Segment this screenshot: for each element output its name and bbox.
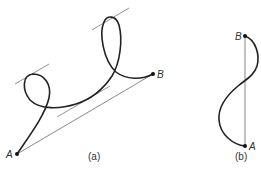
point-a-label-b: A xyxy=(248,141,256,152)
caption-a: (a) xyxy=(88,151,100,162)
s-curve xyxy=(219,36,258,146)
diagram-canvas: A B (a) B A (b) xyxy=(0,0,261,175)
looped-curve xyxy=(17,17,153,154)
figure-a: A B (a) xyxy=(5,8,164,162)
point-a-dot xyxy=(15,152,19,156)
chord-ab-a xyxy=(17,74,153,154)
point-a-label: A xyxy=(5,149,13,160)
point-a-dot-b xyxy=(243,144,247,148)
point-b-dot xyxy=(151,72,155,76)
tangent-line-right xyxy=(92,8,129,30)
figure-b: B A (b) xyxy=(219,31,258,162)
point-b-label-b: B xyxy=(235,31,242,42)
caption-b: (b) xyxy=(235,151,247,162)
point-b-label: B xyxy=(157,69,164,80)
point-b-dot-b xyxy=(243,34,247,38)
